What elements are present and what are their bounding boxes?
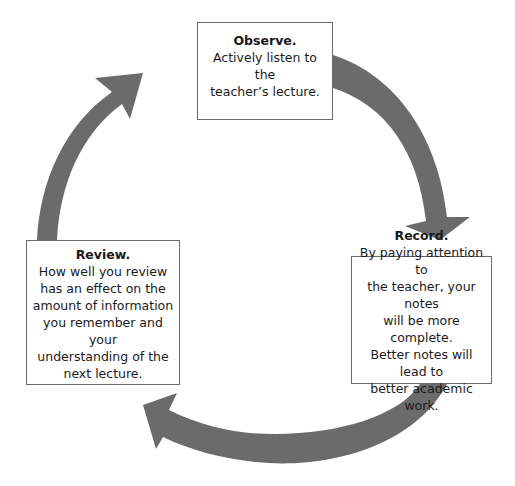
step-record-line: the teacher, your notes xyxy=(356,278,487,312)
step-review-box: Review. How well you review has an effec… xyxy=(26,240,180,385)
step-review-line: has an effect on the xyxy=(31,280,175,297)
step-observe-line: teacher’s lecture. xyxy=(202,83,328,100)
step-review-line: amount of information xyxy=(31,297,175,314)
arrow-observe-to-record xyxy=(333,55,470,240)
step-review-line: understanding of the xyxy=(31,348,175,365)
step-record-line: better academic work. xyxy=(356,380,487,414)
step-review-title: Review. xyxy=(31,246,175,263)
step-record-line: By paying attention to xyxy=(356,244,487,278)
step-review-line: next lecture. xyxy=(31,365,175,382)
step-record-box: Record. By paying attention to the teach… xyxy=(351,256,492,384)
step-observe-box: Observe. Actively listen to the teacher’… xyxy=(197,22,333,120)
arrow-review-to-observe xyxy=(37,73,143,240)
step-record-line: will be more complete. xyxy=(356,312,487,346)
step-observe-line: Actively listen to the xyxy=(202,49,328,83)
step-review-line: How well you review xyxy=(31,263,175,280)
step-observe-title: Observe. xyxy=(202,32,328,49)
step-record-line: Better notes will lead to xyxy=(356,346,487,380)
step-review-line: you remember and your xyxy=(31,314,175,348)
step-record-title: Record. xyxy=(356,227,487,244)
